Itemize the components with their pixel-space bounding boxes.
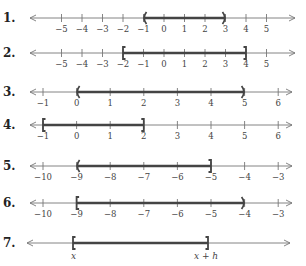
problem-number: 5. — [3, 159, 16, 173]
tick-label: −5 — [55, 24, 68, 34]
problem-number: 1. — [3, 11, 16, 25]
tick-label: 1 — [182, 59, 187, 69]
problem-number: 2. — [3, 46, 16, 60]
tick-label: −8 — [104, 172, 117, 182]
tick-label: 0 — [161, 24, 166, 34]
tick-label: −5 — [205, 172, 218, 182]
tick-label: −6 — [171, 172, 184, 182]
tick-label: 2 — [202, 59, 207, 69]
tick-label: 5 — [264, 24, 269, 34]
tick-label: 2 — [141, 131, 146, 141]
tick-label: 2 — [202, 24, 207, 34]
number-line-problem-5: 5.−10−9−8−7−6−5−4−3 — [3, 159, 292, 182]
endpoint-label-left: x — [71, 251, 76, 261]
tick-label: 4 — [208, 98, 213, 108]
number-line-problem-7: 7.xx + h — [3, 236, 290, 261]
tick-label: 0 — [74, 98, 79, 108]
number-line-problem-3: 3.−10123456 — [3, 85, 292, 108]
tick-label: −5 — [55, 59, 68, 69]
tick-label: 4 — [243, 59, 248, 69]
tick-label: −4 — [76, 59, 89, 69]
tick-label: −1 — [37, 98, 50, 108]
tick-label: −10 — [34, 172, 52, 182]
number-line-problem-4: 4.−10123456 — [3, 118, 292, 141]
endpoint-label-right: x + h — [194, 251, 218, 261]
tick-label: −1 — [37, 131, 50, 141]
number-line-problem-2: 2.−5−4−3−2−1012345 — [3, 46, 295, 69]
tick-label: −2 — [117, 24, 130, 34]
tick-label: 5 — [264, 59, 269, 69]
tick-label: −4 — [76, 24, 89, 34]
tick-label: 5 — [242, 98, 247, 108]
tick-label: −4 — [238, 209, 251, 219]
tick-label: 0 — [161, 59, 166, 69]
tick-label: −8 — [104, 209, 117, 219]
number-lines-canvas: 1.−5−4−3−2−10123452.−5−4−3−2−10123453.−1… — [0, 0, 306, 266]
tick-label: 0 — [74, 131, 79, 141]
tick-label: 6 — [275, 131, 280, 141]
tick-label: 5 — [242, 131, 247, 141]
tick-label: −3 — [272, 209, 285, 219]
tick-label: −6 — [171, 209, 184, 219]
tick-label: 6 — [275, 98, 280, 108]
number-line-problem-1: 1.−5−4−3−2−1012345 — [3, 11, 295, 34]
tick-label: −9 — [70, 172, 83, 182]
tick-label: −3 — [96, 24, 109, 34]
tick-label: −7 — [138, 172, 151, 182]
tick-label: 4 — [208, 131, 213, 141]
tick-label: 3 — [175, 131, 180, 141]
tick-label: −1 — [137, 59, 150, 69]
tick-label: 3 — [223, 59, 228, 69]
tick-label: −3 — [272, 172, 285, 182]
tick-label: 4 — [243, 24, 248, 34]
tick-label: 1 — [107, 131, 112, 141]
problem-number: 7. — [3, 236, 16, 250]
number-line-problem-6: 6.−10−9−8−7−6−5−4−3 — [3, 196, 292, 219]
tick-label: −2 — [117, 59, 130, 69]
tick-label: −1 — [137, 24, 150, 34]
problem-number: 4. — [3, 118, 16, 132]
tick-label: 1 — [107, 98, 112, 108]
tick-label: −10 — [34, 209, 52, 219]
tick-label: 3 — [223, 24, 228, 34]
problem-number: 6. — [3, 196, 16, 210]
tick-label: −9 — [70, 209, 83, 219]
tick-label: 2 — [141, 98, 146, 108]
tick-label: −7 — [138, 209, 151, 219]
problem-number: 3. — [3, 85, 16, 99]
tick-label: −5 — [205, 209, 218, 219]
tick-label: 1 — [182, 24, 187, 34]
tick-label: 3 — [175, 98, 180, 108]
tick-label: −4 — [238, 172, 251, 182]
tick-label: −3 — [96, 59, 109, 69]
